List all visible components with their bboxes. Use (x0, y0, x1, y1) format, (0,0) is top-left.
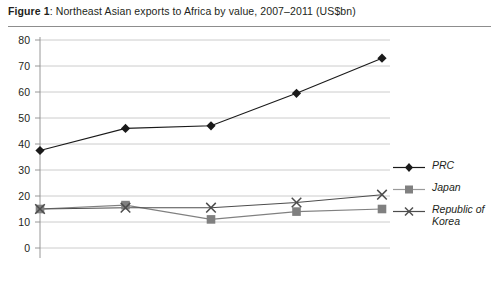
figure-caption-text: Northeast Asian exports to Africa by val… (56, 5, 356, 17)
caption-divider (8, 26, 491, 27)
legend-item: Republic of Korea (392, 203, 496, 227)
diamond-marker-icon (392, 160, 426, 173)
figure-caption-separator: : (50, 5, 53, 17)
chart-legend: PRC Japan R (392, 159, 496, 235)
y-axis-tick: 40 (4, 139, 30, 149)
y-axis-tick: 30 (4, 165, 30, 175)
legend-label-korea: Republic of Korea (426, 203, 496, 227)
y-axis-tick: 10 (4, 217, 30, 227)
legend-label-japan: Japan (426, 181, 461, 193)
legend-item: Japan (392, 181, 496, 195)
y-axis-tick: 0 (4, 243, 30, 253)
y-axis-tick: 80 (4, 35, 30, 45)
figure-container: Figure 1: Northeast Asian exports to Afr… (0, 0, 499, 289)
x-marker-icon (392, 204, 426, 217)
chart-series-lines (40, 58, 382, 219)
legend-item: PRC (392, 159, 496, 173)
chart-plot-area: 01020304050607080 20072008200920102011 P… (0, 30, 499, 262)
y-axis-tick: 70 (4, 61, 30, 71)
y-axis-tick: 60 (4, 87, 30, 97)
figure-caption-label: Figure 1 (8, 5, 50, 17)
figure-caption: Figure 1: Northeast Asian exports to Afr… (8, 5, 356, 18)
square-marker-icon (392, 182, 426, 195)
y-axis-tick: 50 (4, 113, 30, 123)
legend-label-prc: PRC (426, 159, 454, 171)
y-axis-tick: 20 (4, 191, 30, 201)
